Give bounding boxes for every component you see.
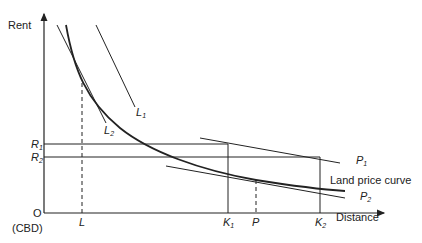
k1-label: K1 [223, 216, 234, 229]
origin-label: O [33, 207, 42, 219]
line-l2 [57, 25, 106, 123]
r1-label: R1 [31, 138, 43, 151]
k2-label: K2 [315, 216, 326, 229]
p-label: P [252, 216, 260, 228]
line-p1 [200, 138, 340, 163]
l1-label: L1 [136, 106, 146, 119]
r2-label: R2 [31, 151, 43, 164]
p2-label: P2 [360, 190, 371, 203]
p1-label: P1 [356, 154, 367, 167]
l-label: L [79, 216, 85, 228]
land-price-curve-label: Land price curve [330, 174, 411, 186]
x-axis-label: Distance [336, 211, 379, 223]
origin-sublabel: (CBD) [12, 222, 43, 234]
line-l1 [96, 25, 135, 107]
l2-label: L2 [104, 124, 114, 137]
land-price-diagram: Rent Distance O (CBD) R1 R2 L K1 P K2 L1… [0, 0, 422, 243]
y-axis-label: Rent [8, 19, 31, 31]
